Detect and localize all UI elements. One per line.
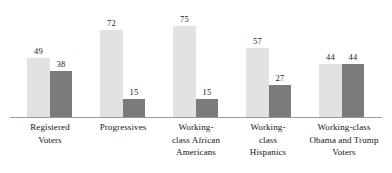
bar-group: 49 38 bbox=[27, 0, 72, 118]
bar-series-1 bbox=[246, 48, 269, 118]
bar-group: 57 27 bbox=[246, 0, 291, 118]
bar-chart: 49 38 72 15 75 15 57 27 44 bbox=[0, 0, 392, 173]
bar-group: 72 15 bbox=[100, 0, 145, 118]
bar-value-series-1: 72 bbox=[92, 18, 132, 28]
category-label-line: Working- bbox=[155, 121, 237, 134]
category-labels: Registered Voters Progressives Working- … bbox=[0, 121, 392, 173]
category-label-progressives: Progressives bbox=[82, 121, 164, 134]
bar-value-series-2: 15 bbox=[114, 87, 154, 97]
bar-value-series-1: 57 bbox=[238, 36, 278, 46]
bar-series-2 bbox=[123, 99, 145, 118]
bar-value-series-2: 15 bbox=[187, 87, 227, 97]
category-label-line: Obama and Trump bbox=[296, 134, 392, 147]
category-label-line: Progressives bbox=[82, 121, 164, 134]
bar-series-2 bbox=[269, 85, 291, 118]
category-label-line: Voters bbox=[296, 146, 392, 159]
bar-value-series-1: 75 bbox=[165, 14, 205, 24]
bar-value-series-2: 38 bbox=[41, 59, 81, 69]
category-label-registered-voters: Registered Voters bbox=[9, 121, 91, 146]
bar-value-series-1: 49 bbox=[19, 46, 59, 56]
category-label-line: Registered bbox=[9, 121, 91, 134]
bar-series-2 bbox=[196, 99, 218, 118]
category-label-line: Americans bbox=[155, 146, 237, 159]
bar-series-1 bbox=[100, 30, 123, 118]
category-label-line: Working-class bbox=[296, 121, 392, 134]
category-label-line: Voters bbox=[9, 134, 91, 147]
x-axis-line bbox=[10, 117, 382, 118]
category-label-line: class African bbox=[155, 134, 237, 147]
bar-series-1 bbox=[173, 26, 196, 118]
bar-value-series-2: 44 bbox=[333, 52, 373, 62]
bar-group: 75 15 bbox=[173, 0, 218, 118]
plot-area: 49 38 72 15 75 15 57 27 44 bbox=[0, 0, 392, 118]
bar-value-series-2: 27 bbox=[260, 73, 300, 83]
bar-series-2 bbox=[50, 71, 72, 118]
bar-series-1 bbox=[319, 64, 342, 118]
bar-group: 44 44 bbox=[319, 0, 364, 118]
category-label-working-class-obama-and-trump-voters: Working-class Obama and Trump Voters bbox=[296, 121, 392, 159]
category-label-working-class-african-americans: Working- class African Americans bbox=[155, 121, 237, 159]
bar-series-2 bbox=[342, 64, 364, 118]
